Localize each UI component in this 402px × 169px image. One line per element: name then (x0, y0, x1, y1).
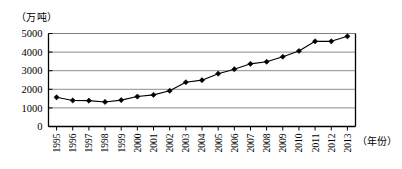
x-tick-label: 2004 (197, 133, 207, 152)
x-tick-label: 1998 (100, 133, 110, 152)
x-tick-label: 2006 (230, 133, 240, 152)
line-chart-plot: 0100020003000400050001995199619971998199… (0, 0, 402, 169)
x-tick-label: 1999 (117, 133, 127, 152)
y-tick-label: 2000 (22, 84, 43, 95)
x-tick-label: 1995 (52, 133, 62, 152)
y-tick-label: 1000 (22, 103, 43, 114)
x-tick-label: 2003 (181, 133, 191, 152)
data-point-marker (102, 99, 107, 104)
data-point-marker (86, 98, 91, 103)
x-tick-label: 2009 (278, 133, 288, 152)
x-tick-label: 2005 (214, 133, 224, 152)
x-tick-label: 2010 (294, 133, 304, 152)
data-series-line (57, 36, 348, 102)
x-tick-label: 1996 (68, 133, 78, 152)
x-tick-label: 2011 (311, 133, 321, 152)
chart-figure: （万吨） 01000200030004000500019951996199719… (0, 0, 402, 169)
x-tick-label: 1997 (84, 133, 94, 152)
data-point-marker (54, 95, 59, 100)
data-point-marker (135, 94, 140, 99)
data-point-marker (329, 39, 334, 44)
data-point-marker (119, 97, 124, 102)
x-tick-label: 2007 (246, 133, 256, 152)
x-tick-label: 2001 (149, 133, 159, 152)
data-point-marker (264, 59, 269, 64)
data-point-marker (70, 98, 75, 103)
y-tick-label: 4000 (22, 47, 43, 58)
y-tick-label: 3000 (22, 65, 43, 76)
data-point-marker (280, 54, 285, 59)
data-point-marker (151, 92, 156, 97)
x-tick-label: 2013 (343, 133, 353, 152)
data-point-marker (248, 61, 253, 66)
data-point-marker (199, 78, 204, 83)
x-tick-label: 2000 (133, 133, 143, 152)
x-tick-label: 2002 (165, 133, 175, 152)
x-tick-label: 2012 (327, 133, 337, 152)
data-point-marker (345, 34, 350, 39)
y-tick-label: 0 (37, 121, 42, 132)
data-point-marker (216, 71, 221, 76)
data-point-marker (296, 48, 301, 53)
y-tick-label: 5000 (22, 28, 43, 39)
x-tick-label: 2008 (262, 133, 272, 152)
data-point-marker (183, 80, 188, 85)
x-axis-unit-label: （年份） (357, 133, 397, 148)
data-point-marker (313, 39, 318, 44)
